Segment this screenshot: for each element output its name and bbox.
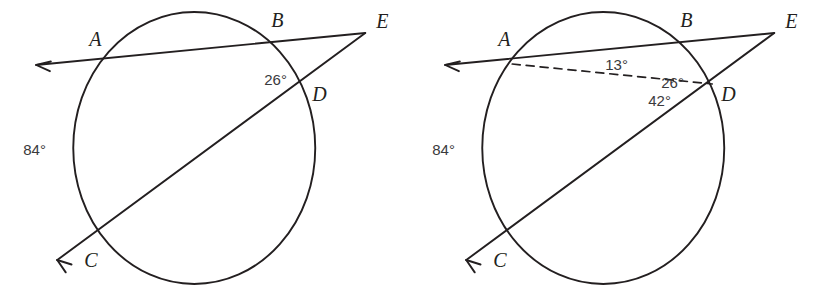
arrow-toward-c-icon [466, 260, 480, 272]
inscribed-angle-13: 13° [605, 56, 628, 73]
point-label-d: D [311, 83, 327, 105]
point-label-a: A [87, 28, 102, 50]
arc-measure-84: 84° [23, 141, 46, 158]
right-diagram-canvas: ABCDE84°13°26°42° [409, 0, 817, 303]
circle-secants-solution: ABCDE84°13°26°42° [409, 0, 817, 303]
point-label-a: A [496, 28, 511, 50]
geometry-figure-pair: ABCDE84°26°ABCDE84°13°26°42° [0, 0, 817, 303]
point-label-e: E [375, 10, 388, 32]
circle-outline [73, 12, 315, 284]
point-label-d: D [720, 83, 736, 105]
point-label-c: C [84, 249, 98, 271]
arrow-toward-a-icon [36, 61, 51, 71]
point-label-c: C [493, 249, 507, 271]
exterior-angle-42: 42° [648, 92, 671, 109]
point-label-b: B [680, 9, 692, 31]
angle-measure-26: 26° [661, 74, 684, 91]
secant-ray-abe [36, 33, 365, 65]
arc-measure-84: 84° [432, 141, 455, 158]
angle-measure-26: 26° [264, 71, 287, 88]
circle-secants-given: ABCDE84°26° [0, 0, 409, 303]
left-diagram-canvas: ABCDE84°26° [0, 0, 409, 303]
arrow-toward-c-icon [57, 260, 71, 272]
arrow-toward-a-icon [445, 61, 460, 71]
circle-outline [482, 12, 724, 284]
secant-ray-cde [57, 33, 365, 260]
point-label-b: B [271, 9, 283, 31]
point-label-e: E [784, 10, 797, 32]
